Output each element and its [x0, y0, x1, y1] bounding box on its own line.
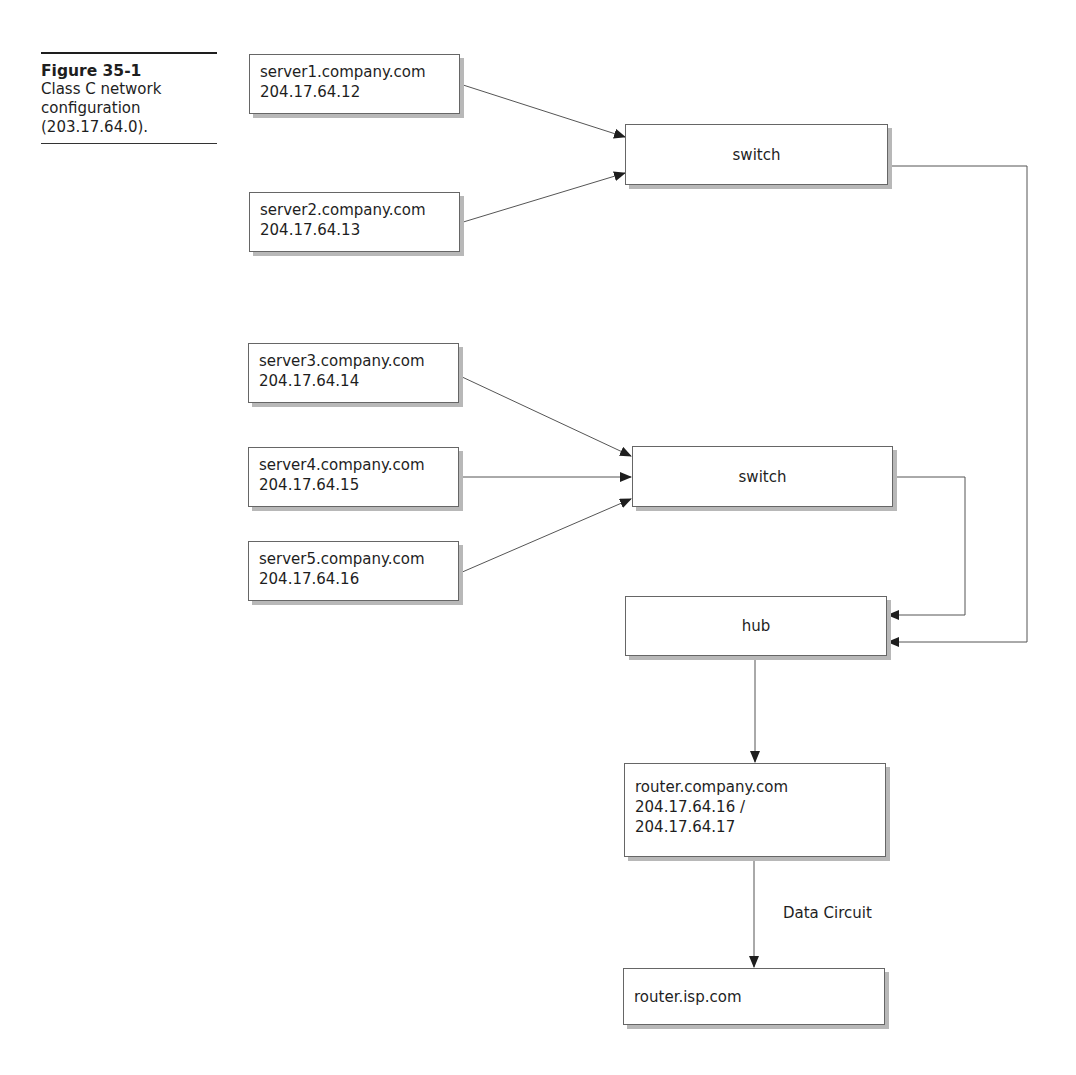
switch2-node[interactable]: switch [632, 446, 893, 507]
router-isp-hostname: router.isp.com [634, 987, 884, 1007]
edge-server1-switch1 [460, 84, 625, 137]
edge-server5-switch2 [460, 499, 631, 573]
edge-server2-switch1 [460, 173, 625, 223]
hub-node[interactable]: hub [625, 596, 887, 656]
server1-ip: 204.17.64.12 [260, 82, 459, 102]
server3-ip: 204.17.64.14 [259, 371, 458, 391]
server4-ip: 204.17.64.15 [259, 475, 458, 495]
router-company-hostname: router.company.com [635, 777, 885, 797]
switch2-label: switch [739, 467, 787, 487]
router-isp-node[interactable]: router.isp.com [623, 968, 885, 1025]
edge-server3-switch2 [460, 376, 631, 456]
data-circuit-label: Data Circuit [783, 904, 872, 922]
router-company-ip-2: 204.17.64.17 [635, 817, 885, 837]
server3-node[interactable]: server3.company.com 204.17.64.14 [248, 343, 459, 403]
server2-ip: 204.17.64.13 [260, 220, 459, 240]
server2-hostname: server2.company.com [260, 200, 459, 220]
server3-hostname: server3.company.com [259, 351, 458, 371]
hub-label: hub [742, 616, 771, 636]
switch1-label: switch [733, 145, 781, 165]
switch1-node[interactable]: switch [625, 124, 888, 185]
edge-switch1-hub [888, 166, 1027, 642]
server4-node[interactable]: server4.company.com 204.17.64.15 [248, 447, 459, 507]
server5-ip: 204.17.64.16 [259, 569, 458, 589]
server4-hostname: server4.company.com [259, 455, 458, 475]
edge-switch2-hub [888, 477, 965, 615]
server1-hostname: server1.company.com [260, 62, 459, 82]
server5-node[interactable]: server5.company.com 204.17.64.16 [248, 541, 459, 601]
router-company-ip-1: 204.17.64.16 / [635, 797, 885, 817]
server2-node[interactable]: server2.company.com 204.17.64.13 [249, 192, 460, 252]
server5-hostname: server5.company.com [259, 549, 458, 569]
router-company-node[interactable]: router.company.com 204.17.64.16 / 204.17… [624, 763, 886, 857]
server1-node[interactable]: server1.company.com 204.17.64.12 [249, 54, 460, 114]
connector-lines [0, 0, 1076, 1075]
